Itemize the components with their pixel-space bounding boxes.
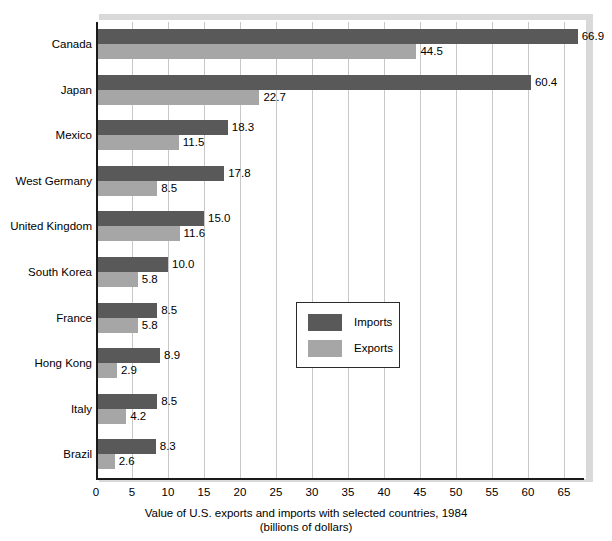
bar-value-imports: 8.3: [160, 439, 176, 454]
bar-imports: [96, 394, 157, 409]
y-axis-line: [96, 22, 98, 479]
bar-exports: [96, 44, 416, 59]
gridline: [312, 22, 313, 478]
bar-value-exports: 44.5: [420, 44, 442, 59]
bar-value-exports: 2.9: [121, 363, 137, 378]
x-tick-label: 15: [189, 485, 219, 499]
bar-exports: [96, 135, 179, 150]
bar-exports: [96, 409, 126, 424]
x-tick-label: 0: [81, 485, 111, 499]
legend: Imports Exports: [296, 302, 400, 368]
legend-swatch-exports: [308, 340, 342, 357]
x-tick-label: 10: [153, 485, 183, 499]
category-label: Canada: [52, 38, 92, 51]
bar-exports: [96, 454, 115, 469]
gridline: [528, 22, 529, 478]
gridline: [420, 22, 421, 478]
bar-imports: [96, 211, 204, 226]
category-labels: CanadaJapanMexicoWest GermanyUnited King…: [0, 0, 92, 541]
bar-value-imports: 17.8: [228, 166, 250, 181]
bar-imports: [96, 257, 168, 272]
bar-imports: [96, 303, 157, 318]
bar-value-imports: 66.9: [582, 29, 604, 44]
x-tick-label: 50: [441, 485, 471, 499]
bar-exports: [96, 226, 180, 241]
bar-exports: [96, 363, 117, 378]
x-tick-label: 40: [369, 485, 399, 499]
category-label: West Germany: [16, 175, 92, 188]
bar-value-exports: 2.6: [119, 454, 135, 469]
legend-label-imports: Imports: [354, 315, 392, 330]
x-tick-label: 30: [297, 485, 327, 499]
plot-area: 66.944.560.422.718.311.517.88.515.011.61…: [96, 22, 583, 478]
bar-value-exports: 5.8: [142, 272, 158, 287]
x-tick-label: 65: [549, 485, 579, 499]
bar-value-exports: 5.8: [142, 318, 158, 333]
bar-imports: [96, 439, 156, 454]
bar-value-imports: 8.9: [164, 348, 180, 363]
x-tick-label: 45: [405, 485, 435, 499]
bar-exports: [96, 90, 259, 105]
legend-swatch-imports: [308, 314, 342, 331]
bar-exports: [96, 272, 138, 287]
bar-imports: [96, 75, 531, 90]
x-tick-label: 35: [333, 485, 363, 499]
chart-caption-subtitle: (billions of dollars): [0, 520, 612, 534]
category-label: Hong Kong: [34, 357, 92, 370]
gridline: [384, 22, 385, 478]
x-tick-label: 20: [225, 485, 255, 499]
x-tick-label: 55: [477, 485, 507, 499]
bar-value-imports: 15.0: [208, 211, 230, 226]
bar-value-exports: 8.5: [161, 181, 177, 196]
bar-chart: 66.944.560.422.718.311.517.88.515.011.61…: [0, 0, 612, 541]
x-tick-label: 5: [117, 485, 147, 499]
category-label: United Kingdom: [10, 220, 92, 233]
bar-imports: [96, 348, 160, 363]
category-label: Italy: [71, 403, 92, 416]
bar-value-exports: 11.6: [184, 226, 206, 241]
x-tick-label: 60: [513, 485, 543, 499]
bar-value-imports: 10.0: [172, 257, 194, 272]
bar-exports: [96, 318, 138, 333]
gridline: [348, 22, 349, 478]
gridline: [564, 22, 565, 478]
bar-value-imports: 8.5: [161, 303, 177, 318]
x-tick-label: 25: [261, 485, 291, 499]
bar-value-exports: 22.7: [263, 90, 285, 105]
bar-imports: [96, 29, 578, 44]
category-label: France: [56, 312, 92, 325]
category-label: Mexico: [56, 129, 92, 142]
bar-value-exports: 4.2: [130, 409, 146, 424]
bar-value-exports: 11.5: [183, 135, 205, 150]
gridline: [492, 22, 493, 478]
category-label: Brazil: [63, 448, 92, 461]
bar-imports: [96, 166, 224, 181]
bar-value-imports: 8.5: [161, 394, 177, 409]
chart-caption-title: Value of U.S. exports and imports with s…: [0, 506, 612, 520]
bar-exports: [96, 181, 157, 196]
bar-imports: [96, 120, 228, 135]
gridline: [456, 22, 457, 478]
legend-label-exports: Exports: [354, 341, 393, 356]
category-label: South Korea: [28, 266, 92, 279]
x-axis-line: [96, 478, 584, 480]
bar-value-imports: 18.3: [232, 120, 254, 135]
bar-value-imports: 60.4: [535, 75, 557, 90]
category-label: Japan: [61, 84, 92, 97]
